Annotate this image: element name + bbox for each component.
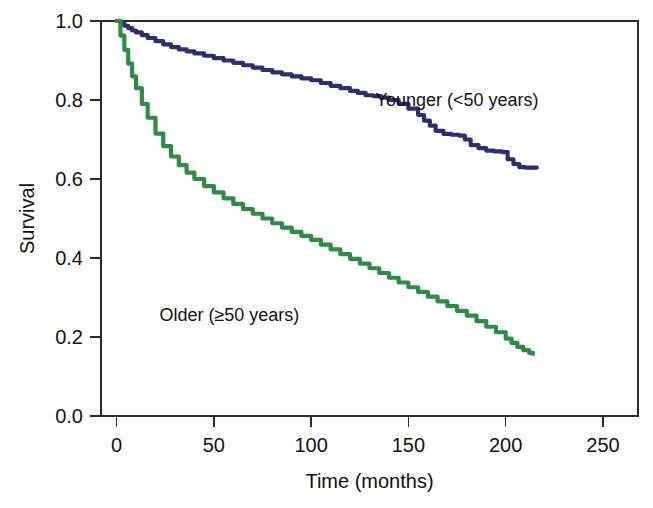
x-tick-label: 150 xyxy=(392,434,425,456)
survival-chart-figure: 0501001502002500.00.20.40.60.81.0Time (m… xyxy=(0,0,653,508)
chart-canvas: 0501001502002500.00.20.40.60.81.0Time (m… xyxy=(0,0,653,508)
x-tick-label: 200 xyxy=(489,434,522,456)
y-tick-label: 0.6 xyxy=(55,168,83,190)
y-tick-label: 1.0 xyxy=(55,10,83,32)
y-tick-label: 0.4 xyxy=(55,247,83,269)
y-tick-label: 0.0 xyxy=(55,405,83,427)
x-tick-label: 250 xyxy=(586,434,619,456)
survival-curve-older xyxy=(117,21,533,354)
series-annotation-older: Older (≥50 years) xyxy=(159,305,299,325)
y-tick-label: 0.8 xyxy=(55,89,83,111)
x-tick-label: 100 xyxy=(294,434,327,456)
series-annotation-younger: Younger (<50 years) xyxy=(376,90,539,110)
y-tick-label: 0.2 xyxy=(55,326,83,348)
plot-frame xyxy=(101,21,638,416)
x-tick-label: 50 xyxy=(203,434,225,456)
x-tick-label: 0 xyxy=(111,434,122,456)
x-axis-title: Time (months) xyxy=(305,470,433,492)
y-axis-title: Survival xyxy=(16,183,38,254)
